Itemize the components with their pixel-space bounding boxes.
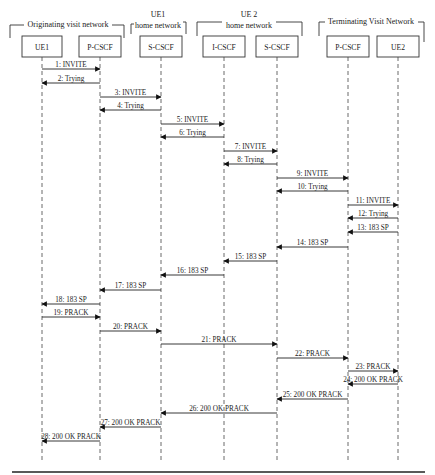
svg-text:UE2: UE2 (391, 43, 405, 52)
message-label: 26: 200 OK PRACK (189, 405, 250, 413)
message-label: 10: Trying (297, 183, 328, 191)
participant-p-cscf-originating: P-CSCF (79, 36, 121, 462)
message-22: 22: PRACK (277, 350, 348, 359)
group-label-ue1-line1: UE1 (151, 10, 166, 19)
message-label: 19: PRACK (54, 309, 90, 317)
message-label: 18: 183 SP (55, 296, 87, 304)
message-15: 15: 183 SP (224, 253, 277, 262)
group-label-terminating: Terminating Visit Network (328, 17, 414, 26)
message-11: 11: INVITE (348, 197, 398, 206)
participant-i-cscf: I-CSCF (203, 36, 245, 462)
message-label: 25: 200 OK PRACK (283, 391, 344, 399)
message-label: 21: PRACK (202, 336, 238, 344)
participant-s-cscf-ue1-home: S-CSCF (140, 36, 182, 462)
message-label: 27: 200 OK PRACK (101, 419, 162, 427)
message-5: 5: INVITE (161, 116, 224, 125)
message-19: 19: PRACK (42, 309, 100, 318)
message-3: 3: INVITE (100, 89, 161, 98)
participant-ue2: UE2 (377, 36, 419, 462)
message-label: 9: INVITE (297, 170, 329, 178)
message-label: 2: Trying (58, 75, 85, 83)
sequence-diagram: Originating visit network UE1 home netwo… (0, 0, 435, 475)
messages: 1: INVITE2: Trying3: INVITE4: Trying5: I… (41, 61, 404, 442)
message-label: 16: 183 SP (177, 267, 209, 275)
message-26: 26: 200 OK PRACK (161, 405, 277, 414)
message-8: 8: Trying (224, 156, 277, 165)
message-label: 15: 183 SP (235, 253, 267, 261)
message-23: 23: PRACK (348, 363, 398, 372)
message-28: 28: 200 OK PRACK (41, 433, 102, 442)
message-label: 12: Trying (358, 210, 389, 218)
message-7: 7: INVITE (224, 143, 277, 152)
message-label: 24: 200 OK PRACK (343, 376, 404, 384)
message-label: 13: 183 SP (357, 224, 389, 232)
message-label: 20: PRACK (113, 323, 149, 331)
message-9: 9: INVITE (277, 170, 348, 179)
message-1: 1: INVITE (42, 61, 100, 70)
message-label: 11: INVITE (356, 197, 391, 205)
svg-text:P-CSCF: P-CSCF (87, 43, 112, 52)
group-label-ue2-line1: UE 2 (241, 10, 258, 19)
group-label-originating: Originating visit network (28, 20, 109, 29)
message-27: 27: 200 OK PRACK (100, 419, 161, 428)
message-label: 23: PRACK (356, 363, 392, 371)
message-16: 16: 183 SP (161, 267, 224, 276)
group-ue2-home-network: UE 2 home network (197, 10, 302, 36)
message-label: 14: 183 SP (297, 239, 329, 247)
message-25: 25: 200 OK PRACK (277, 391, 348, 400)
message-17: 17: 183 SP (100, 282, 161, 291)
group-label-ue2-line2: home network (226, 21, 272, 30)
message-20: 20: PRACK (100, 323, 161, 332)
message-13: 13: 183 SP (348, 224, 398, 233)
message-label: 28: 200 OK PRACK (41, 433, 102, 441)
message-12: 12: Trying (348, 210, 398, 219)
group-originating-visit-network: Originating visit network (10, 20, 124, 38)
message-label: 4: Trying (117, 102, 144, 110)
message-14: 14: 183 SP (277, 239, 348, 248)
message-label: 3: INVITE (115, 89, 147, 97)
message-6: 6: Trying (161, 129, 224, 138)
svg-text:I-CSCF: I-CSCF (212, 43, 236, 52)
svg-text:UE1: UE1 (35, 43, 49, 52)
message-label: 8: Trying (237, 156, 264, 164)
message-label: 17: 183 SP (115, 282, 147, 290)
group-ue1-home-network: UE1 home network (131, 10, 186, 34)
svg-text:S-CSCF: S-CSCF (264, 43, 289, 52)
svg-text:P-CSCF: P-CSCF (335, 43, 360, 52)
message-label: 6: Trying (179, 129, 206, 137)
message-18: 18: 183 SP (42, 296, 100, 305)
participant-ue1: UE1 (22, 36, 62, 462)
group-label-ue1-line2: home network (135, 21, 181, 30)
message-10: 10: Trying (277, 183, 348, 192)
message-label: 7: INVITE (235, 143, 267, 151)
svg-text:S-CSCF: S-CSCF (148, 43, 173, 52)
message-4: 4: Trying (100, 102, 161, 111)
message-label: 1: INVITE (55, 61, 87, 69)
message-21: 21: PRACK (161, 336, 277, 345)
message-label: 5: INVITE (177, 116, 209, 124)
message-2: 2: Trying (42, 75, 100, 84)
message-24: 24: 200 OK PRACK (343, 376, 404, 385)
message-label: 22: PRACK (295, 350, 331, 358)
